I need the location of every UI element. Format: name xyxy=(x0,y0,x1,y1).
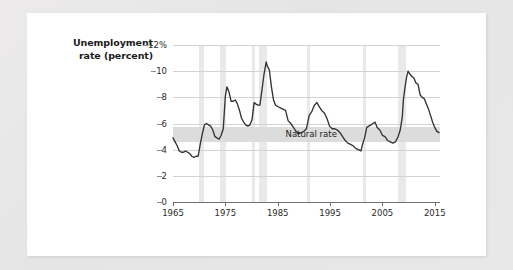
y-axis-tick-mark xyxy=(151,71,156,72)
y-axis-tick-mark xyxy=(157,150,162,151)
natural-rate-annotation: Natural rate xyxy=(286,129,337,139)
y-axis-tick-mark xyxy=(157,124,162,125)
y-axis-tick-label: 8 xyxy=(162,92,167,102)
plot-area: Natural rate xyxy=(173,45,440,202)
y-axis-tick-label: 12% xyxy=(148,40,167,50)
unemployment-rate-line xyxy=(173,62,439,158)
x-axis-tick-mark xyxy=(225,202,226,206)
y-axis-tick-mark xyxy=(143,45,148,46)
x-axis-tick-label: 1995 xyxy=(319,208,341,218)
x-axis-tick-mark xyxy=(173,202,174,206)
x-axis-tick-mark xyxy=(330,202,331,206)
x-axis-line xyxy=(173,202,440,203)
y-axis-tick-mark xyxy=(157,202,162,203)
y-axis-tick-label: 0 xyxy=(162,197,167,207)
x-axis-tick-label: 2005 xyxy=(372,208,394,218)
data-series-svg xyxy=(173,45,440,202)
x-axis-tick-label: 1975 xyxy=(215,208,237,218)
y-axis-tick-label: 10 xyxy=(156,66,167,76)
y-axis-tick-label: 4 xyxy=(162,145,167,155)
y-axis-tick-label: 2 xyxy=(162,171,167,181)
figure-card: Unemployment rate (percent) 024681012% N… xyxy=(27,13,486,256)
x-axis-tick-label: 1985 xyxy=(267,208,289,218)
x-axis-tick-mark xyxy=(382,202,383,206)
y-axis-tick-label: 6 xyxy=(162,119,167,129)
x-axis-tick-label: 1965 xyxy=(162,208,184,218)
x-axis-tick-label: 2015 xyxy=(424,208,446,218)
y-axis-tick-labels: 024681012% xyxy=(123,45,167,202)
y-axis-tick-mark xyxy=(157,176,162,177)
x-axis-tick-mark xyxy=(278,202,279,206)
x-axis-tick-mark xyxy=(435,202,436,206)
y-axis-tick-mark xyxy=(157,97,162,98)
unemployment-rate-chart: Unemployment rate (percent) 024681012% N… xyxy=(27,13,486,256)
